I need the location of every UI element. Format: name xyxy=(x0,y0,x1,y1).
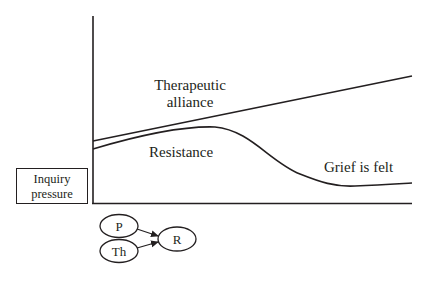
node-p-label: P xyxy=(115,219,122,234)
resistance-curve xyxy=(93,127,412,186)
inquiry-pressure-line2: pressure xyxy=(31,187,73,201)
alliance-label-line2: alliance xyxy=(167,94,214,110)
inquiry-pressure-line1: Inquiry xyxy=(34,172,72,186)
diagram-canvas: Therapeutic alliance Resistance Grief is… xyxy=(0,0,427,282)
node-th-label: Th xyxy=(112,244,127,259)
alliance-label-line1: Therapeutic xyxy=(154,77,226,93)
node-r-label: R xyxy=(173,232,182,247)
edge-th-to-r xyxy=(137,242,158,248)
therapeutic-alliance-line xyxy=(93,76,412,141)
grief-label: Grief is felt xyxy=(324,159,394,175)
edge-p-to-r xyxy=(137,229,158,236)
resistance-label: Resistance xyxy=(149,144,213,160)
